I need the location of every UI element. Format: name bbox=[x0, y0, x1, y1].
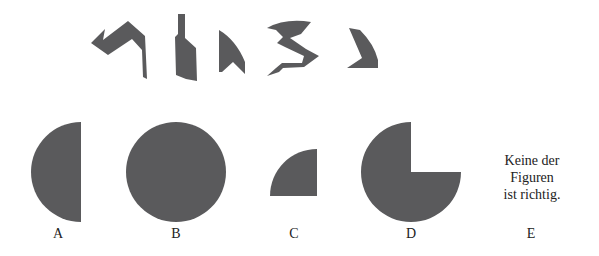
option-e-line-2: Figuren bbox=[487, 169, 577, 186]
option-e-text[interactable]: Keine der Figuren ist richtig. bbox=[487, 152, 577, 203]
label-b: B bbox=[161, 226, 191, 242]
option-a-half-circle[interactable] bbox=[31, 122, 81, 222]
option-e-line-1: Keine der bbox=[487, 152, 577, 169]
option-e-line-3: ist richtig. bbox=[487, 186, 577, 203]
piece-4 bbox=[267, 21, 319, 76]
option-d-three-quarter-circle[interactable] bbox=[361, 122, 461, 222]
label-d: D bbox=[396, 226, 426, 242]
label-e: E bbox=[516, 226, 546, 242]
piece-2 bbox=[175, 14, 197, 81]
pieces-row bbox=[91, 14, 378, 81]
puzzle-figure bbox=[0, 0, 599, 256]
piece-1 bbox=[91, 21, 147, 79]
piece-5 bbox=[347, 28, 378, 68]
label-a: A bbox=[43, 226, 73, 242]
option-b-circle[interactable] bbox=[126, 122, 226, 222]
label-c: C bbox=[279, 226, 309, 242]
piece-3 bbox=[219, 30, 245, 74]
option-c-quarter-circle[interactable] bbox=[270, 149, 317, 196]
